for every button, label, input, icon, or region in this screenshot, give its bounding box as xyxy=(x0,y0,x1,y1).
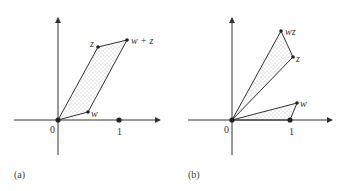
panel-b: 0 1 wz z w (b) xyxy=(188,18,332,181)
point-wz xyxy=(279,29,283,33)
diagram-canvas: 0 1 z w + z w (a) 0 1 wz z w (b) xyxy=(0,0,348,191)
z-label-b: z xyxy=(295,53,300,64)
caption-a: (a) xyxy=(14,169,25,181)
w-label-a: w xyxy=(91,108,98,119)
unit-label-b: 1 xyxy=(289,126,294,137)
origin-point-a xyxy=(55,117,60,122)
point-w-a xyxy=(86,110,90,114)
point-z-a xyxy=(96,45,100,49)
unit-point-b xyxy=(287,117,292,122)
w-label-b: w xyxy=(300,98,307,109)
unit-label-a: 1 xyxy=(117,126,122,137)
z-label-a: z xyxy=(89,38,94,49)
caption-b: (b) xyxy=(188,169,200,181)
w-plus-z-label: w + z xyxy=(131,35,153,46)
origin-label-a: 0 xyxy=(50,124,55,135)
origin-label-b: 0 xyxy=(224,124,229,135)
panel-a: 0 1 z w + z w (a) xyxy=(14,18,160,181)
point-z-b xyxy=(291,55,295,59)
origin-point-b xyxy=(229,117,234,122)
point-w-b xyxy=(295,101,299,105)
point-w-plus-z xyxy=(125,38,129,42)
unit-point-a xyxy=(116,117,121,122)
wz-label: wz xyxy=(285,26,296,37)
